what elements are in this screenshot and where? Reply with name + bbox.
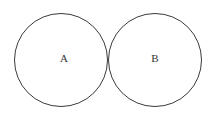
two-tangent-circles-diagram: A B [0, 0, 214, 113]
circle-a-label: A [60, 52, 68, 64]
figure-canvas: ……… · · ·· · A B [0, 0, 214, 113]
circle-b-label: B [151, 52, 158, 64]
